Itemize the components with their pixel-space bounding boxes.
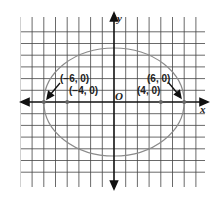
point-4 xyxy=(159,100,163,104)
x-axis-label: x xyxy=(199,103,206,115)
origin-label: O xyxy=(115,90,123,102)
ellipse-graph: y x O (−6, 0) (−4, 0) (4, 0) (6, 0) xyxy=(0,0,215,197)
arrow-left-icon xyxy=(21,99,29,106)
label-6: (6, 0) xyxy=(147,73,170,84)
point-neg4 xyxy=(65,100,69,104)
point-6 xyxy=(182,100,186,104)
y-axis-label: y xyxy=(115,12,122,24)
arrow-down-icon xyxy=(111,181,118,189)
label-neg4: (−4, 0) xyxy=(69,85,98,96)
label-neg6: (−6, 0) xyxy=(60,73,89,84)
point-neg6 xyxy=(42,100,46,104)
label-4: (4, 0) xyxy=(137,85,160,96)
